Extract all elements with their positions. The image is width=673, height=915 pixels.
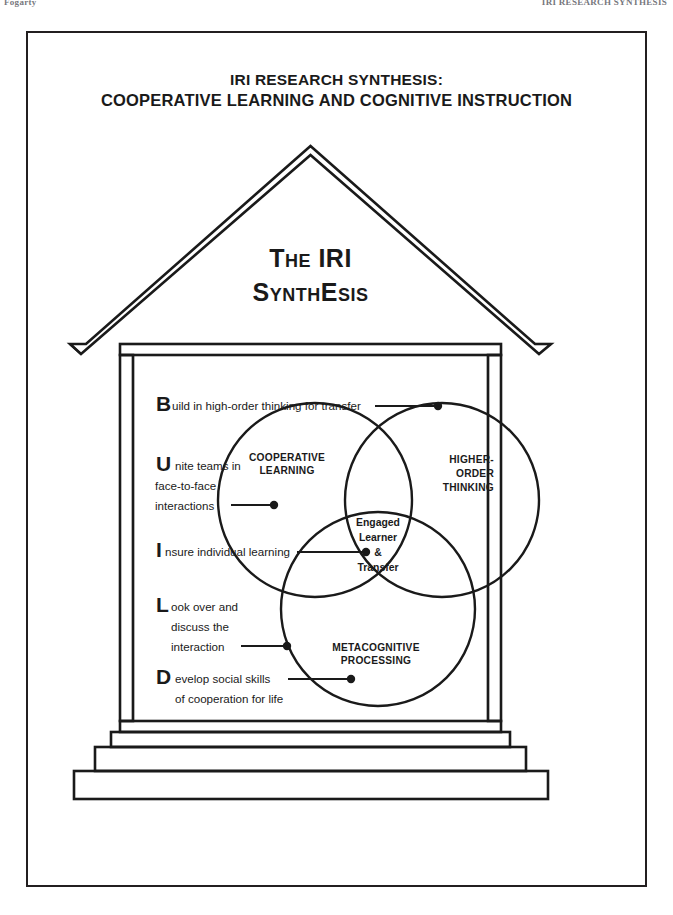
- venn-label-higher-order-thinking-line2: ORDER: [456, 468, 494, 479]
- venn-label-metacognitive-processing-line2: PROCESSING: [341, 655, 411, 666]
- venn-label-cooperative-learning-line2: LEARNING: [259, 465, 314, 476]
- build-text-u-line2: face-to-face: [155, 479, 216, 492]
- venn-label-cooperative-learning-line1: COOPERATIVE: [249, 452, 325, 463]
- build-text-d-line2: of cooperation for life: [175, 692, 283, 705]
- build-cap-d: D: [156, 665, 171, 688]
- build-cap-b: B: [156, 392, 171, 415]
- build-item-d: D evelop social skills of cooperation fo…: [156, 665, 355, 705]
- build-text-u-line1: nite teams in: [175, 459, 241, 472]
- leader-dot-b: [434, 402, 442, 410]
- leader-dot-i: [362, 548, 370, 556]
- roof-title-line1: THE IRI: [269, 244, 352, 272]
- build-cap-u: U: [156, 452, 171, 475]
- build-item-b: B uild in high-order thinking for transf…: [156, 392, 442, 415]
- foundation-slab-top: [111, 732, 510, 747]
- venn-labels: COOPERATIVE LEARNING HIGHER- ORDER THINK…: [249, 452, 494, 666]
- build-text-u-line3: interactions: [155, 499, 214, 512]
- build-text-l-line2: discuss the: [171, 620, 229, 633]
- build-text-l-line3: interaction: [171, 640, 225, 653]
- build-cap-l: L: [156, 593, 169, 616]
- house-foundation: [74, 732, 548, 799]
- venn-center-label-line4: Transfer: [357, 562, 398, 573]
- build-item-l: L ook over and discuss the interaction: [156, 593, 291, 653]
- build-item-i: I nsure individual learning: [156, 538, 370, 561]
- roof-title-line2: SYNTHESIS: [253, 278, 369, 306]
- running-head-right: IRI RESEARCH SYNTHESIS: [542, 0, 667, 7]
- iri-synthesis-house-diagram: THE IRI SYNTHESIS COOPERATIVE LEARNING H…: [26, 31, 647, 887]
- build-text-b-line1: uild in high-order thinking for transfer: [172, 399, 361, 412]
- roof-title: THE IRI SYNTHESIS: [253, 244, 369, 306]
- leader-dot-u: [270, 501, 278, 509]
- build-text-i-line1: nsure individual learning: [165, 545, 290, 558]
- venn-center-label-line1: Engaged: [356, 517, 400, 528]
- venn-label-higher-order-thinking-line1: HIGHER-: [449, 454, 494, 465]
- foundation-slab-mid: [95, 747, 526, 771]
- leader-dot-d: [347, 675, 355, 683]
- leader-dot-l: [283, 642, 291, 650]
- running-head-left: Fogarty: [4, 0, 37, 7]
- build-cap-i: I: [156, 538, 162, 561]
- venn-label-higher-order-thinking-line3: THINKING: [443, 482, 494, 493]
- venn-center-label-line2: Learner: [359, 532, 397, 543]
- build-text-l-line1: ook over and: [171, 600, 238, 613]
- venn-center-label-line3: &: [374, 547, 382, 558]
- venn-label-metacognitive-processing-line1: METACOGNITIVE: [332, 642, 419, 653]
- foundation-slab-bottom: [74, 771, 548, 799]
- build-text-d-line1: evelop social skills: [175, 672, 271, 685]
